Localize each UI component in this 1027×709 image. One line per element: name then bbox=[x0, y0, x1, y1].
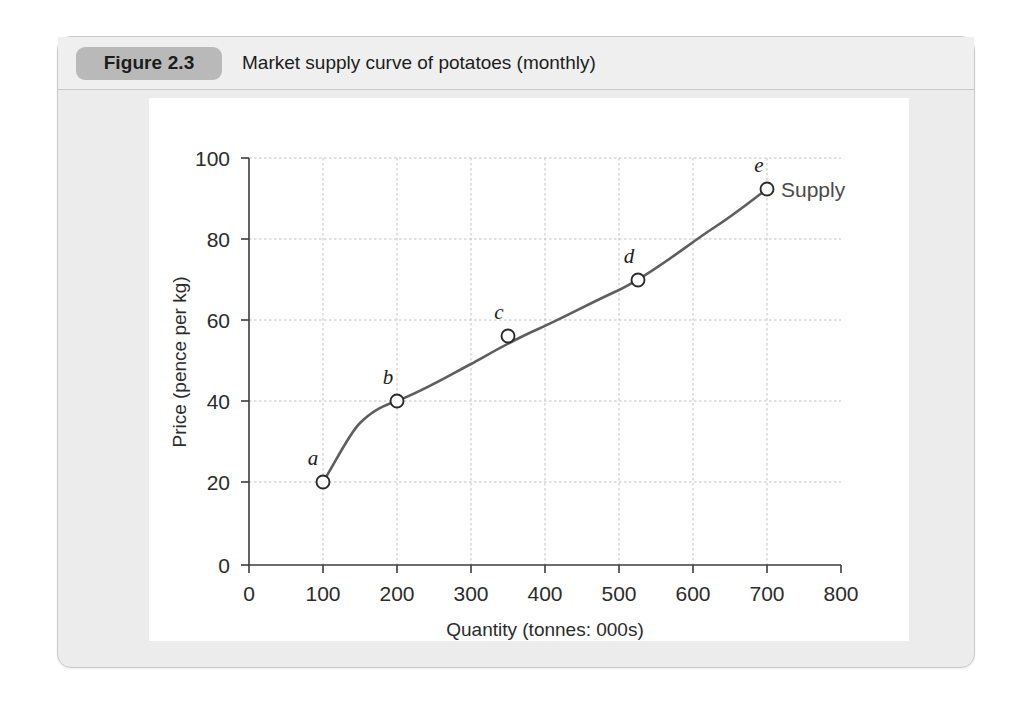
y-axis-title: Price (pence per kg) bbox=[169, 276, 190, 447]
y-tick-label: 60 bbox=[207, 309, 230, 332]
x-tick-label: 800 bbox=[823, 582, 858, 605]
y-tick-label: 20 bbox=[207, 471, 230, 494]
x-axis-title: Quantity (tonnes: 000s) bbox=[446, 619, 644, 640]
x-tick-label: 700 bbox=[749, 582, 784, 605]
x-tick-label: 200 bbox=[379, 582, 414, 605]
x-tick-label: 100 bbox=[305, 582, 340, 605]
x-tick-label: 0 bbox=[243, 582, 255, 605]
y-tick-label: 100 bbox=[195, 147, 230, 170]
data-point-e bbox=[761, 183, 774, 196]
x-tick-label: 500 bbox=[601, 582, 636, 605]
y-tick-label: 40 bbox=[207, 390, 230, 413]
point-label-a: a bbox=[308, 446, 319, 470]
point-label-b: b bbox=[383, 365, 394, 389]
y-tick-labels: 100 80 60 40 20 0 bbox=[195, 147, 230, 577]
data-point-a bbox=[317, 476, 330, 489]
data-point-c bbox=[502, 330, 515, 343]
series-label-supply: Supply bbox=[781, 178, 846, 201]
figure-card: Figure 2.3 Market supply curve of potato… bbox=[57, 36, 975, 668]
supply-curve-chart: 100 80 60 40 20 0 0 100 200 300 400 500 … bbox=[58, 37, 976, 669]
x-tick-labels: 0 100 200 300 400 500 600 700 800 bbox=[243, 582, 858, 605]
data-point-d bbox=[632, 274, 645, 287]
x-tick-label: 400 bbox=[527, 582, 562, 605]
point-label-c: c bbox=[494, 300, 504, 324]
point-label-e: e bbox=[754, 153, 763, 177]
vertical-gridlines bbox=[323, 158, 767, 565]
x-tick-label: 600 bbox=[675, 582, 710, 605]
y-tick-label: 0 bbox=[218, 554, 230, 577]
x-axis-ticks bbox=[249, 565, 841, 573]
point-label-d: d bbox=[624, 244, 635, 268]
data-point-b bbox=[391, 395, 404, 408]
y-axis-ticks bbox=[241, 158, 249, 565]
y-tick-label: 80 bbox=[207, 228, 230, 251]
data-point-labels: a b c d e bbox=[308, 153, 764, 470]
x-tick-label: 300 bbox=[453, 582, 488, 605]
